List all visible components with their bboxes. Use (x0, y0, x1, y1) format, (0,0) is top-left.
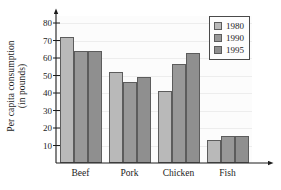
bar-beef-1990 (74, 51, 88, 163)
y-tick-70: 70 (34, 36, 52, 46)
legend-item-1980: 1980 (214, 20, 244, 32)
y-axis-label-line1: Per capita consumption (6, 40, 16, 131)
bar-chart-figure: Per capita consumption (in pounds) 10203… (0, 0, 281, 190)
y-tick-50: 50 (34, 71, 52, 81)
bar-pork-1995 (137, 77, 151, 163)
bar-group-chicken (158, 16, 200, 163)
y-axis-label-line2: (in pounds) (17, 40, 28, 131)
x-axis-tick-labels: BeefPorkChickenFish (56, 168, 252, 184)
legend-label-1990: 1990 (226, 33, 244, 43)
y-tick-30: 30 (34, 106, 52, 116)
bar-group-pork (109, 16, 151, 163)
bar-pork-1980 (109, 72, 123, 163)
bar-fish-1995 (235, 136, 249, 163)
bar-beef-1995 (88, 51, 102, 163)
bar-pork-1990 (123, 82, 137, 163)
x-tick-fish: Fish (219, 168, 235, 178)
y-tick-20: 20 (34, 123, 52, 133)
bar-chicken-1990 (172, 64, 186, 163)
x-tick-chicken: Chicken (163, 168, 195, 178)
legend: 198019901995 (209, 16, 250, 60)
y-tick-40: 40 (34, 88, 52, 98)
legend-swatch-1990 (214, 34, 222, 42)
bar-chicken-1995 (186, 53, 200, 163)
legend-swatch-1980 (214, 22, 222, 30)
y-axis-tick-labels: 1020304050607080 (30, 0, 52, 190)
bar-beef-1980 (60, 37, 74, 163)
legend-item-1990: 1990 (214, 32, 244, 44)
legend-swatch-1995 (214, 46, 222, 54)
y-axis-label: Per capita consumption (in pounds) (0, 0, 34, 172)
y-tick-60: 60 (34, 53, 52, 63)
bar-fish-1980 (207, 140, 221, 163)
y-tick-10: 10 (34, 141, 52, 151)
bar-group-beef (60, 16, 102, 163)
bar-chicken-1980 (158, 91, 172, 163)
x-tick-beef: Beef (72, 168, 90, 178)
x-tick-pork: Pork (121, 168, 139, 178)
legend-item-1995: 1995 (214, 44, 244, 56)
legend-label-1995: 1995 (226, 45, 244, 55)
bar-fish-1990 (221, 136, 235, 163)
y-tick-80: 80 (34, 18, 52, 28)
legend-label-1980: 1980 (226, 21, 244, 31)
